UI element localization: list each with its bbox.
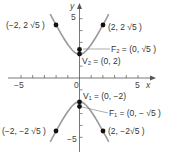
label-lower-left-point: (−2, −2 √5 ) (2, 126, 46, 136)
y-axis (77, 3, 83, 152)
point-f1 (77, 104, 82, 109)
x-axis (8, 75, 156, 81)
tick-label-x-5: 5 (135, 80, 140, 90)
point-upper-right (101, 23, 106, 28)
tick-label-y-neg5: −5 (67, 134, 77, 144)
f1-leader-line (82, 107, 108, 113)
y-axis-label: y (69, 1, 75, 11)
label-upper-left-point: (−2, 2 √5 ) (6, 20, 45, 30)
point-upper-left (54, 23, 59, 28)
label-v1: V₁ = (0, −2) (83, 91, 126, 101)
label-f1: F₁ = (0, − √5 ) (109, 108, 161, 118)
tick-label-y-5: 5 (71, 12, 76, 22)
point-f2 (77, 47, 82, 52)
tick-label-x-neg5: −5 (14, 80, 24, 90)
tick-label-x-0: 0 (74, 80, 79, 90)
label-v2: V₂ = (0, 2) (82, 56, 121, 66)
point-lower-right (101, 129, 106, 134)
point-lower-left (54, 129, 59, 134)
hyperbola-chart: y x −5 0 5 5 −5 (−2, 2 √5 ) (2, 2 √5 ) F… (0, 0, 171, 154)
label-upper-right-point: (2, 2 √5 ) (108, 22, 142, 32)
x-axis-label: x (145, 80, 151, 90)
label-f2: F₂ = (0, √5 ) (111, 44, 156, 54)
label-lower-right-point: (2, −2√5 ) (108, 126, 145, 136)
point-v1 (77, 100, 82, 105)
